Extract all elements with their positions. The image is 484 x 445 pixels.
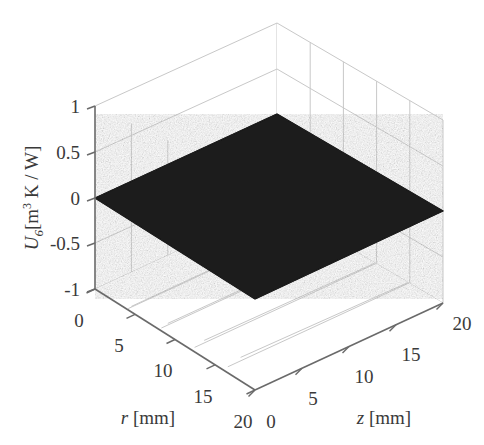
u6-tick-label-0_5: 0.5 bbox=[56, 142, 80, 163]
u6-axis-tick-labels: 1 0.5 0 -0.5 -1 bbox=[50, 96, 80, 300]
u6-tick-label-1: 1 bbox=[71, 96, 81, 117]
z-tick-label-5: 5 bbox=[308, 388, 318, 409]
u6-axis-ticks bbox=[87, 106, 95, 292]
r-axis-title-unit: [mm] bbox=[133, 407, 175, 428]
u6-axis-title: U6[m3 K / W] bbox=[20, 146, 46, 251]
r-tick-label-10: 10 bbox=[154, 360, 173, 381]
z-tick-label-15: 15 bbox=[402, 344, 421, 365]
z-axis-title-unit: [mm] bbox=[369, 407, 411, 428]
u6-axis-title-unit-b: K / W] bbox=[21, 146, 42, 203]
r-tick-label-5: 5 bbox=[114, 335, 124, 356]
u6-axis-title-unit-a: [m bbox=[21, 209, 42, 230]
z-tick-label-20: 20 bbox=[453, 313, 472, 334]
z-tick-label-10: 10 bbox=[355, 366, 374, 387]
plot-canvas: 1 0.5 0 -0.5 -1 0 5 10 15 20 0 5 10 15 2… bbox=[0, 0, 484, 445]
r-tick-label-0: 0 bbox=[74, 310, 84, 331]
svg-text:r [mm]: r [mm] bbox=[121, 407, 175, 428]
z-axis-title: z [mm] bbox=[356, 407, 411, 428]
u6-tick-label-neg1: -1 bbox=[64, 279, 80, 300]
r-tick-label-15: 15 bbox=[194, 386, 213, 407]
svg-text:U6[m3 K / W]: U6[m3 K / W] bbox=[20, 146, 46, 251]
r-tick-label-20: 20 bbox=[234, 411, 253, 432]
svg-text:z [mm]: z [mm] bbox=[356, 407, 411, 428]
u6-tick-label-0: 0 bbox=[71, 188, 81, 209]
u6-tick-label-neg0_5: -0.5 bbox=[50, 233, 80, 254]
z-tick-label-0: 0 bbox=[266, 411, 276, 432]
r-axis-title: r [mm] bbox=[121, 407, 175, 428]
surface-plot-figure: 1 0.5 0 -0.5 -1 0 5 10 15 20 0 5 10 15 2… bbox=[0, 0, 484, 445]
